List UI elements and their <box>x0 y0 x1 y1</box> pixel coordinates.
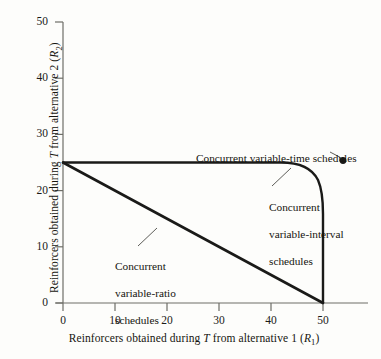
x-axis-title-suffix: ) <box>315 332 319 344</box>
x-axis-title-symbol: R <box>304 332 311 344</box>
annotation-variable-interval-line1: Concurrent <box>269 201 344 214</box>
y-axis-title-prefix: Reinforcers obtained during <box>48 158 60 293</box>
y-axis-title: Reinforcers obtained during T from alter… <box>48 37 63 299</box>
annotation-variable-ratio-line1: Concurrent <box>115 260 176 273</box>
x-axis-title-middle: from alternative 1 ( <box>210 332 304 344</box>
annotation-variable-time: Concurrent variable-time schedules <box>196 152 357 165</box>
annotation-variable-ratio-line2: variable-ratio <box>115 287 176 300</box>
leader-line-variable-ratio <box>138 228 157 246</box>
y-tick-label-20: 20 <box>26 184 48 196</box>
x-tick-label-40: 40 <box>259 314 283 326</box>
x-tick-label-0: 0 <box>51 314 75 326</box>
annotation-variable-interval-line3: schedules <box>269 255 344 268</box>
x-tick-label-30: 30 <box>207 314 231 326</box>
annotation-variable-interval-line2: variable-interval <box>269 228 344 241</box>
y-axis-title-suffix: ) <box>48 42 60 46</box>
y-tick-label-50: 50 <box>26 15 48 27</box>
y-axis-title-middle: from alternative 2 ( <box>48 58 60 152</box>
y-tick-label-40: 40 <box>26 71 48 83</box>
y-axis-title-subscript: 2 <box>54 46 64 50</box>
x-tick-label-50: 50 <box>311 314 335 326</box>
annotation-variable-ratio-line3: schedules <box>115 314 176 327</box>
y-tick-label-10: 10 <box>26 240 48 252</box>
x-axis-ticks <box>63 303 323 311</box>
y-axis-title-italic-T: T <box>48 152 60 159</box>
annotation-variable-ratio: Concurrent variable-ratio schedules <box>115 247 176 341</box>
annotation-variable-interval: Concurrent variable-interval schedules <box>269 188 344 282</box>
x-axis-title: Reinforcers obtained during T from alter… <box>63 332 325 347</box>
figure-container: 0 10 20 30 40 50 0 10 20 30 40 50 Reinfo… <box>0 0 381 359</box>
y-tick-label-30: 30 <box>26 127 48 139</box>
leader-line-variable-interval <box>272 168 291 186</box>
y-tick-label-0: 0 <box>26 296 48 308</box>
y-axis-title-symbol: R <box>48 51 60 58</box>
